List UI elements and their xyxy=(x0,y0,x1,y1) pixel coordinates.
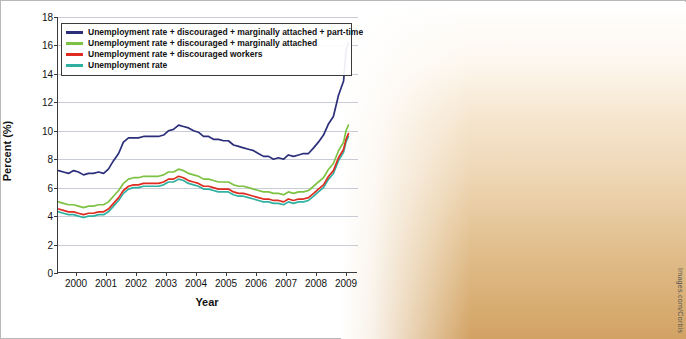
legend-item: Unemployment rate + discouraged + margin… xyxy=(66,38,346,49)
x-tick-label: 2005 xyxy=(215,278,237,289)
figure-frame: Images.com/Corbis Percent (%) Year 02468… xyxy=(0,0,686,339)
x-tick-label: 2009 xyxy=(335,278,357,289)
x-tick-label: 2000 xyxy=(65,278,87,289)
x-tick-label: 2001 xyxy=(95,278,117,289)
x-tick-label: 2002 xyxy=(125,278,147,289)
legend-item: Unemployment rate + discouraged workers xyxy=(66,49,346,60)
series-line xyxy=(59,134,349,215)
legend-swatch-0 xyxy=(66,31,83,34)
legend-item: Unemployment rate xyxy=(66,60,346,71)
y-tick-label: 2 xyxy=(47,239,53,250)
legend-swatch-2 xyxy=(66,53,83,56)
legend-item: Unemployment rate + discouraged + margin… xyxy=(66,27,346,38)
legend-swatch-1 xyxy=(66,42,83,45)
chart-area: Percent (%) Year 024681012141618 2000200… xyxy=(1,1,401,339)
y-tick-label: 16 xyxy=(42,40,53,51)
y-tick-label: 12 xyxy=(42,97,53,108)
x-tick-label: 2004 xyxy=(185,278,207,289)
y-tick-label: 0 xyxy=(47,268,53,279)
legend-label-2: Unemployment rate + discouraged workers xyxy=(88,49,263,60)
x-axis-label: Year xyxy=(195,296,218,308)
x-tick-label: 2007 xyxy=(275,278,297,289)
legend-swatch-3 xyxy=(66,64,83,67)
y-tick-label: 14 xyxy=(42,68,53,79)
legend-label-1: Unemployment rate + discouraged + margin… xyxy=(88,38,317,49)
x-tick-label: 2006 xyxy=(245,278,267,289)
image-credit: Images.com/Corbis xyxy=(677,268,684,333)
y-tick-label: 8 xyxy=(47,154,53,165)
legend: Unemployment rate + discouraged + margin… xyxy=(61,23,352,76)
y-tick-label: 6 xyxy=(47,182,53,193)
y-tick-label: 18 xyxy=(42,12,53,23)
x-tick-label: 2008 xyxy=(305,278,327,289)
legend-label-0: Unemployment rate + discouraged + margin… xyxy=(88,27,363,38)
y-tick-label: 10 xyxy=(42,125,53,136)
legend-label-3: Unemployment rate xyxy=(88,60,167,71)
y-axis-label: Percent (%) xyxy=(1,121,13,182)
x-tick-label: 2003 xyxy=(155,278,177,289)
y-tick-label: 4 xyxy=(47,211,53,222)
y-tick-mark xyxy=(54,273,58,274)
series-line xyxy=(59,125,349,207)
